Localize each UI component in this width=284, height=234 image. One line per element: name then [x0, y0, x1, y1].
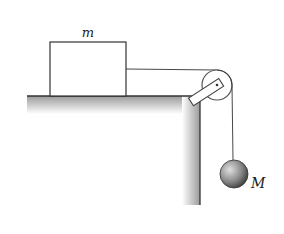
- table: [27, 96, 200, 205]
- table-side-shade: [182, 96, 200, 205]
- hanging-mass-M: [220, 160, 248, 188]
- pulley-axle: [216, 84, 219, 87]
- block-mass-label: m: [82, 25, 94, 40]
- string-vertical: [232, 85, 233, 161]
- block-m: [50, 42, 126, 96]
- table-top-shade: [27, 96, 200, 114]
- pulley-diagram: m M: [0, 0, 284, 234]
- pulley: [189, 70, 232, 106]
- hanging-mass-label: M: [250, 175, 266, 191]
- string-horizontal: [126, 69, 217, 70]
